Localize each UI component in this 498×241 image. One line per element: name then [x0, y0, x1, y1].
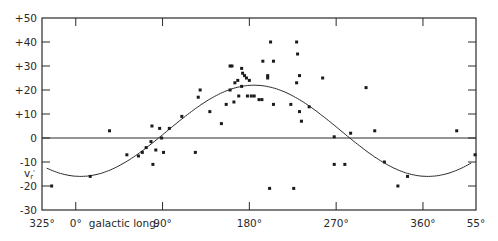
data-point	[272, 60, 275, 63]
data-point	[154, 149, 157, 152]
data-point	[240, 85, 243, 88]
x-tick-label: 325°	[29, 217, 54, 229]
data-point	[230, 65, 233, 68]
data-point	[150, 125, 153, 128]
data-point	[343, 163, 346, 166]
data-point	[289, 103, 292, 106]
data-point	[261, 60, 264, 63]
data-point	[199, 89, 202, 92]
data-point	[298, 74, 301, 77]
data-point	[180, 115, 183, 118]
data-point	[246, 95, 249, 98]
data-point	[260, 98, 263, 101]
data-point	[197, 96, 200, 99]
data-point	[162, 151, 165, 154]
data-point	[145, 146, 148, 149]
x-axis: 325°0°90°180°270°360°55°	[29, 18, 485, 229]
data-point	[89, 175, 92, 178]
data-point	[321, 77, 324, 80]
x-tick-label: 360°	[410, 217, 435, 229]
data-point	[258, 98, 261, 101]
data-point	[229, 89, 232, 92]
y-axis: +50+40+30+20+100-10-20-30	[15, 12, 476, 216]
x-axis-title: galactic long.	[89, 217, 159, 229]
x-tick-label: 0°	[70, 217, 82, 229]
y-tick-label: +20	[15, 84, 37, 96]
data-point	[295, 81, 298, 84]
x-tick-label: 180°	[237, 217, 262, 229]
y-tick-label: +30	[15, 60, 37, 72]
data-point	[333, 163, 336, 166]
data-point	[474, 153, 477, 156]
x-tick-label: 55°	[467, 217, 486, 229]
data-point	[158, 127, 161, 130]
data-point	[300, 120, 303, 123]
data-point	[240, 67, 243, 70]
data-point	[50, 185, 53, 188]
data-point	[160, 137, 163, 140]
data-point	[236, 79, 239, 82]
data-points	[50, 41, 476, 190]
data-point	[383, 161, 386, 164]
data-point	[298, 110, 301, 113]
data-point	[225, 103, 228, 106]
data-point	[268, 187, 271, 190]
data-point	[455, 129, 458, 132]
data-point	[194, 151, 197, 154]
plot-border	[42, 18, 476, 210]
y-axis-title: vr'	[24, 167, 35, 181]
data-point	[308, 105, 311, 108]
data-point	[108, 129, 111, 132]
data-point	[141, 151, 144, 154]
data-point	[137, 155, 140, 158]
data-point	[295, 41, 298, 44]
data-point	[253, 95, 256, 98]
data-point	[269, 41, 272, 44]
data-point	[365, 86, 368, 89]
data-point	[220, 122, 223, 125]
plot-frame	[42, 18, 476, 210]
data-point	[233, 81, 236, 84]
data-point	[406, 175, 409, 178]
data-point	[396, 185, 399, 188]
data-point	[292, 187, 295, 190]
y-tick-label: +40	[15, 36, 37, 48]
y-tick-label: +50	[15, 12, 37, 24]
data-point	[151, 163, 154, 166]
data-point	[250, 95, 253, 98]
data-point	[349, 132, 352, 135]
data-point	[266, 77, 269, 80]
data-point	[245, 77, 248, 80]
data-point	[149, 140, 152, 143]
y-tick-label: +10	[15, 108, 37, 120]
data-point	[125, 153, 128, 156]
data-point	[168, 127, 171, 130]
data-point	[296, 53, 299, 56]
data-point	[272, 103, 275, 106]
data-point	[237, 95, 240, 98]
x-tick-label: 270°	[324, 217, 349, 229]
chart: +50+40+30+20+100-10-20-30 325°0°90°180°2…	[0, 0, 498, 241]
data-point	[232, 101, 235, 104]
y-tick-label: -20	[20, 180, 37, 192]
y-tick-label: -30	[20, 204, 37, 216]
data-point	[333, 135, 336, 138]
y-tick-label: 0	[30, 132, 37, 144]
data-point	[208, 110, 211, 113]
data-point	[373, 129, 376, 132]
data-point	[248, 79, 251, 82]
